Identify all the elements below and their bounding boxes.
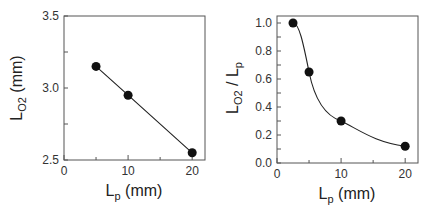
- x-tick-label: 10: [334, 167, 348, 181]
- right-x-axis-label: Lp (mm): [319, 185, 376, 205]
- y-tick-label: 2.5: [42, 153, 59, 167]
- left-y-axis-label: LO2 (mm): [8, 55, 28, 120]
- x-tick-label: 0: [274, 167, 281, 181]
- left-plot-frame: [64, 16, 205, 160]
- y-tick-label: 0.6: [255, 72, 272, 86]
- figure: 010202.53.03.5 Lp (mm) LO2 (mm) 010200.0…: [0, 0, 429, 214]
- x-tick-label: 0: [61, 164, 68, 178]
- left-x-axis-label: Lp (mm): [106, 182, 163, 202]
- y-tick-label: 3.5: [42, 9, 59, 23]
- left-axis-ticks: 010202.53.03.5: [42, 9, 199, 178]
- right-axis-ticks: 010200.00.20.40.60.81.0: [255, 16, 412, 181]
- data-point-marker: [401, 142, 410, 151]
- data-point-marker: [188, 148, 197, 157]
- y-tick-label: 0.0: [255, 156, 272, 170]
- left-chart: 010202.53.03.5 Lp (mm) LO2 (mm): [8, 9, 205, 202]
- x-tick-label: 10: [121, 164, 135, 178]
- y-tick-label: 0.8: [255, 44, 272, 58]
- y-tick-label: 1.0: [255, 16, 272, 30]
- series-line: [96, 66, 192, 152]
- data-point-marker: [289, 19, 298, 28]
- right-plot-frame: [277, 16, 418, 163]
- data-point-marker: [124, 91, 133, 100]
- right-series: [289, 19, 410, 151]
- series-line: [293, 23, 405, 146]
- left-series: [92, 62, 197, 157]
- y-tick-label: 3.0: [42, 81, 59, 95]
- x-tick-label: 20: [186, 164, 200, 178]
- right-y-axis-label: LO2 / Lp: [224, 62, 244, 114]
- right-chart: 010200.00.20.40.60.81.0 Lp (mm) LO2 / Lp: [224, 16, 418, 205]
- data-point-marker: [92, 62, 101, 71]
- y-tick-label: 0.4: [255, 100, 272, 114]
- data-point-marker: [305, 68, 314, 77]
- y-tick-label: 0.2: [255, 128, 272, 142]
- data-point-marker: [337, 117, 346, 126]
- x-tick-label: 20: [399, 167, 413, 181]
